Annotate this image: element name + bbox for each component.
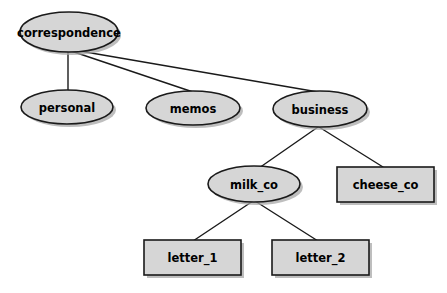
cheese-co-label: cheese_co [353,178,419,193]
edge-business-cheese-co [319,127,383,167]
edge-milk-co-letter-1 [193,201,253,241]
node-cheese-co[interactable]: cheese_co [337,167,437,205]
memos-label: memos [170,102,217,116]
tree-diagram-svg: correspondence personal memos business m… [0,0,447,293]
node-letter-1[interactable]: letter_1 [144,240,244,278]
node-personal[interactable]: personal [21,90,116,127]
node-milk-co[interactable]: milk_co [208,166,303,205]
edge-group [68,49,383,241]
personal-label: personal [39,101,95,115]
milk-co-label: milk_co [230,178,278,193]
business-label: business [292,103,349,117]
letter-1-label: letter_1 [168,251,218,266]
letter-2-label: letter_2 [296,251,346,266]
edge-correspondence-business [68,49,318,92]
node-memos[interactable]: memos [146,91,243,128]
edge-correspondence-memos [68,50,193,92]
edge-milk-co-letter-2 [255,201,318,241]
node-letter-2[interactable]: letter_2 [272,240,372,278]
tree-diagram-canvas: correspondence personal memos business m… [0,0,447,293]
correspondence-label: correspondence [17,26,121,40]
edge-business-milk-co [259,127,318,168]
node-correspondence[interactable]: correspondence [17,12,121,55]
node-business[interactable]: business [273,91,370,130]
